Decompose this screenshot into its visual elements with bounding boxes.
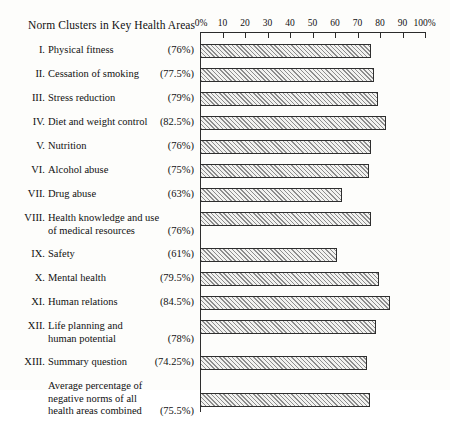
bar — [200, 212, 371, 226]
bar-track — [200, 136, 426, 160]
category-text: Safety — [48, 248, 75, 261]
category-text: Mental health — [48, 272, 106, 285]
x-axis-tick-label: 20 — [240, 18, 250, 28]
category-numeral: XI. — [19, 296, 45, 309]
bar — [200, 44, 371, 58]
bar-value-label: (79%) — [140, 92, 194, 105]
category-numeral: VIII. — [19, 212, 45, 225]
category-text: Drug abuse — [48, 188, 96, 201]
bar — [200, 164, 369, 178]
chart-row: IX.Safety(61%) — [0, 244, 450, 268]
category-text: Life planning and — [48, 320, 123, 333]
x-axis-tick-label: 100% — [413, 18, 435, 28]
bar-track — [200, 112, 426, 136]
x-axis-tick-label: 0% — [195, 18, 208, 28]
bar — [200, 188, 342, 202]
category-text: Cessation of smoking — [48, 68, 139, 81]
x-axis-tick-mark — [245, 32, 246, 38]
x-axis-tick-mark — [290, 32, 291, 38]
bar — [200, 393, 370, 407]
x-axis-tick-label: 10 — [218, 18, 228, 28]
bar-value-label: (75%) — [140, 164, 194, 177]
bar-value-label: (74.25%) — [140, 356, 194, 369]
chart-row: I.Physical fitness(76%) — [0, 40, 450, 64]
x-axis-tick-mark — [313, 32, 314, 38]
category-numeral: VII. — [19, 188, 45, 201]
bar-value-label: (82.5%) — [140, 116, 194, 129]
chart-title: Norm Clusters in Key Health Areas — [28, 19, 195, 31]
bar-track — [200, 316, 426, 352]
bar-value-label: (79.5%) — [140, 272, 194, 285]
category-numeral: II. — [19, 68, 45, 81]
category-numeral: I. — [19, 44, 45, 57]
bar-track — [200, 352, 426, 376]
x-axis: 0%102030405060708090100% — [200, 18, 426, 40]
bar-track — [200, 40, 426, 64]
chart-row: VIII.Health knowledge and useof medical … — [0, 208, 450, 244]
chart-row: XII.Life planning andhuman potential(78%… — [0, 316, 450, 352]
chart-row: XIII.Summary question(74.25%) — [0, 352, 450, 376]
x-axis-tick-mark — [223, 32, 224, 38]
bar-value-label: (76%) — [140, 140, 194, 153]
x-axis-tick-mark — [425, 32, 426, 38]
bar-track — [200, 208, 426, 244]
category-text: Diet and weight control — [48, 116, 147, 129]
chart-row: X.Mental health(79.5%) — [0, 268, 450, 292]
category-numeral: XIII. — [19, 356, 45, 369]
bar-value-label: (63%) — [140, 188, 194, 201]
bar-value-label: (77.5%) — [140, 68, 194, 81]
bar — [200, 296, 390, 310]
bar — [200, 248, 337, 262]
x-axis-tick-label: 90 — [398, 18, 408, 28]
bar — [200, 116, 386, 130]
bar-track — [200, 64, 426, 88]
category-text: Nutrition — [48, 140, 87, 153]
bar-value-label: (76%) — [140, 44, 194, 57]
bar — [200, 320, 376, 334]
bar-value-label: (75.5%) — [140, 405, 194, 418]
chart-row: III.Stress reduction(79%) — [0, 88, 450, 112]
category-text: Stress reduction — [48, 92, 115, 105]
category-text: Alcohol abuse — [48, 164, 108, 177]
x-axis-tick-label: 50 — [308, 18, 318, 28]
bar-value-label: (78%) — [140, 333, 194, 346]
bar-track — [200, 244, 426, 268]
category-text: Health knowledge and use — [48, 212, 159, 225]
category-numeral: X. — [19, 272, 45, 285]
chart-row: Average percentage ofnegative norms of a… — [0, 376, 450, 421]
chart-row: VI.Alcohol abuse(75%) — [0, 160, 450, 184]
x-axis-tick-label: 80 — [375, 18, 385, 28]
chart-row: XI.Human relations(84.5%) — [0, 292, 450, 316]
category-numeral: IV. — [19, 116, 45, 129]
x-axis-tick-labels: 0%102030405060708090100% — [200, 18, 426, 29]
x-axis-tick-label: 40 — [285, 18, 295, 28]
bar-track — [200, 268, 426, 292]
x-axis-tick-mark — [268, 32, 269, 38]
chart-row: II.Cessation of smoking(77.5%) — [0, 64, 450, 88]
category-numeral: III. — [19, 92, 45, 105]
category-numeral: VI. — [19, 164, 45, 177]
bar-track — [200, 184, 426, 208]
x-axis-tick-mark — [335, 32, 336, 38]
bar — [200, 92, 378, 106]
bar-track — [200, 292, 426, 316]
category-text: Physical fitness — [48, 44, 114, 57]
x-axis-tick-label: 30 — [263, 18, 273, 28]
x-axis-tick-label: 70 — [353, 18, 363, 28]
chart-row: VII.Drug abuse(63%) — [0, 184, 450, 208]
chart-row: V.Nutrition(76%) — [0, 136, 450, 160]
bar-track — [200, 160, 426, 184]
x-axis-tick-mark — [403, 32, 404, 38]
bar — [200, 272, 379, 286]
bar-value-label: (61%) — [140, 248, 194, 261]
bar — [200, 356, 367, 370]
x-axis-tick-mark — [358, 32, 359, 38]
category-numeral: XII. — [19, 320, 45, 333]
category-text-continued: negative norms of all — [48, 393, 194, 406]
category-numeral: V. — [19, 140, 45, 153]
bar-value-label: (76%) — [140, 225, 194, 238]
chart-row: IV.Diet and weight control(82.5%) — [0, 112, 450, 136]
bar-value-label: (84.5%) — [140, 296, 194, 309]
x-axis-tick-mark — [380, 32, 381, 38]
category-text: Human relations — [48, 296, 118, 309]
